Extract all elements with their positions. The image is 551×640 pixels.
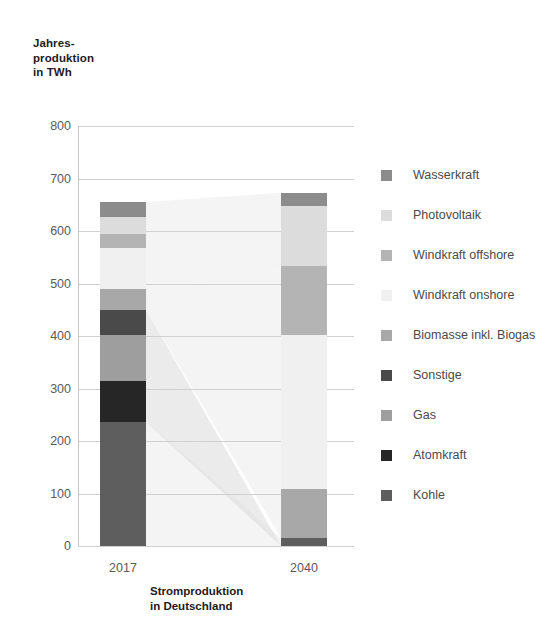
legend-item[interactable]: Wasserkraft bbox=[381, 168, 479, 182]
y-axis-tick-label: 300 bbox=[25, 382, 71, 396]
bar-segment-sonstige[interactable] bbox=[100, 310, 146, 335]
legend-label: Kohle bbox=[413, 488, 445, 502]
legend-label: Windkraft onshore bbox=[413, 288, 514, 302]
legend-item[interactable]: Gas bbox=[381, 408, 436, 422]
y-axis-tick-label: 400 bbox=[25, 329, 71, 343]
legend-item[interactable]: Windkraft offshore bbox=[381, 248, 514, 262]
legend-label: Sonstige bbox=[413, 368, 462, 382]
legend-swatch-icon bbox=[381, 450, 392, 461]
bar-segment-photovoltaik[interactable] bbox=[281, 206, 327, 266]
legend-swatch-icon bbox=[381, 210, 392, 221]
chart-canvas: Jahres- produktion in TWh 80070060050040… bbox=[0, 0, 551, 640]
bar-segment-biomasse-inkl-biogas[interactable] bbox=[281, 489, 327, 538]
y-axis-tick-label: 0 bbox=[25, 539, 71, 553]
bar-segment-windkraft-onshore[interactable] bbox=[281, 335, 327, 489]
y-axis-tick-label: 700 bbox=[25, 172, 71, 186]
legend-item[interactable]: Kohle bbox=[381, 488, 445, 502]
bar-segment-kohle[interactable] bbox=[281, 538, 327, 546]
legend-swatch-icon bbox=[381, 290, 392, 301]
legend-label: Photovoltaik bbox=[413, 208, 481, 222]
legend-item[interactable]: Sonstige bbox=[381, 368, 462, 382]
bar-2017[interactable] bbox=[100, 202, 146, 546]
y-axis-tick-label: 800 bbox=[25, 119, 71, 133]
legend-item[interactable]: Windkraft onshore bbox=[381, 288, 514, 302]
y-axis-tick-label: 500 bbox=[25, 277, 71, 291]
legend-swatch-icon bbox=[381, 490, 392, 501]
bar-segment-wasserkraft[interactable] bbox=[100, 202, 146, 217]
x-axis-title: Stromproduktion in Deutschland bbox=[150, 584, 350, 613]
bar-segment-atomkraft[interactable] bbox=[100, 381, 146, 422]
legend-item[interactable]: Biomasse inkl. Biogas bbox=[381, 328, 535, 342]
bar-segment-kohle[interactable] bbox=[100, 422, 146, 546]
bar-segment-gas[interactable] bbox=[100, 335, 146, 381]
legend-label: Biomasse inkl. Biogas bbox=[413, 328, 535, 342]
gridline bbox=[78, 126, 354, 127]
bar-segment-photovoltaik[interactable] bbox=[100, 217, 146, 233]
bar-segment-biomasse-inkl-biogas[interactable] bbox=[100, 289, 146, 309]
y-axis-title: Jahres- produktion in TWh bbox=[33, 36, 94, 80]
bar-segment-wasserkraft[interactable] bbox=[281, 193, 327, 206]
y-axis-tick-label: 600 bbox=[25, 224, 71, 238]
legend-swatch-icon bbox=[381, 410, 392, 421]
gridline bbox=[78, 179, 354, 180]
legend-item[interactable]: Atomkraft bbox=[381, 448, 467, 462]
bar-segment-windkraft-offshore[interactable] bbox=[100, 234, 146, 248]
x-axis-tick-label: 2040 bbox=[264, 561, 344, 575]
legend-label: Windkraft offshore bbox=[413, 248, 514, 262]
legend-swatch-icon bbox=[381, 250, 392, 261]
legend-swatch-icon bbox=[381, 370, 392, 381]
bar-segment-windkraft-offshore[interactable] bbox=[281, 266, 327, 335]
gridline bbox=[78, 546, 354, 547]
legend-label: Gas bbox=[413, 408, 436, 422]
legend-label: Atomkraft bbox=[413, 448, 467, 462]
bar-2040[interactable] bbox=[281, 193, 327, 546]
x-axis-tick-label: 2017 bbox=[83, 561, 163, 575]
legend-swatch-icon bbox=[381, 330, 392, 341]
y-axis-tick-label: 200 bbox=[25, 434, 71, 448]
y-axis-line bbox=[78, 126, 79, 546]
legend-swatch-icon bbox=[381, 170, 392, 181]
y-axis-tick-label: 100 bbox=[25, 487, 71, 501]
bar-segment-windkraft-onshore[interactable] bbox=[100, 248, 146, 289]
legend-label: Wasserkraft bbox=[413, 168, 479, 182]
legend-item[interactable]: Photovoltaik bbox=[381, 208, 481, 222]
